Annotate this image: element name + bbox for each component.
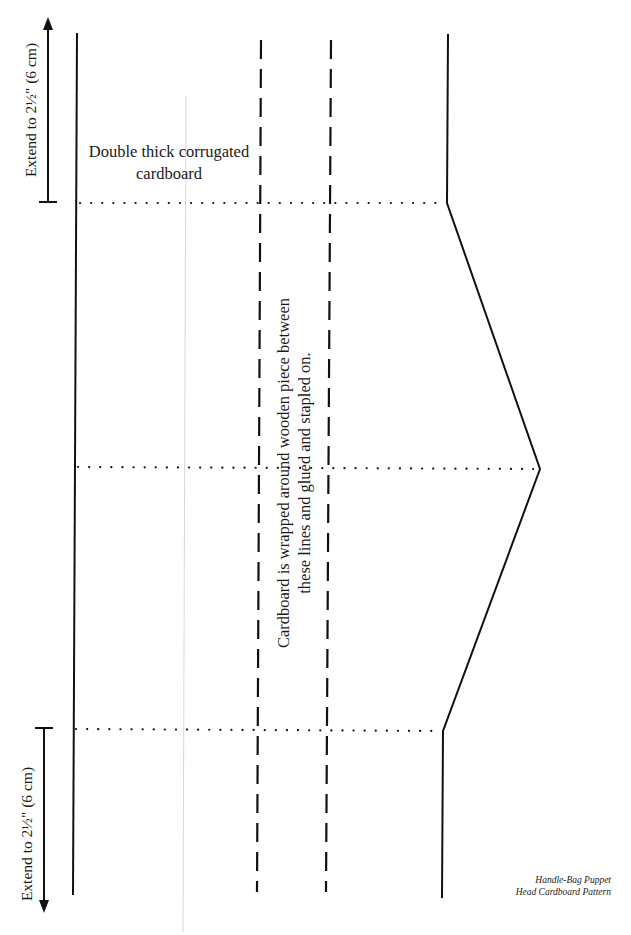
wrap-instruction: Cardboard is wrapped around wooden piece…: [273, 243, 317, 703]
right-cut-line: [442, 34, 540, 898]
wrap-boundary-right-dashed: [326, 40, 331, 892]
extend-bottom-label: Extend to 2½" (6 cm): [17, 744, 37, 924]
material-note-line1: Double thick corrugated: [78, 141, 260, 163]
extend-bottom-arrow-icon: [35, 728, 53, 913]
left-cut-line: [73, 33, 77, 895]
pattern-sheet: Extend to 2½" (6 cm) Extend to 2½" (6 cm…: [0, 0, 631, 935]
wrap-instruction-line2: these lines and glued and stapled on.: [294, 243, 315, 703]
pattern-caption: Handle-Bag Puppet Head Cardboard Pattern: [451, 874, 611, 898]
extend-top-label: Extend to 2½" (6 cm): [21, 20, 41, 200]
material-note: Double thick corrugated cardboard: [78, 141, 260, 185]
caption-line2: Head Cardboard Pattern: [451, 886, 611, 898]
caption-line1: Handle-Bag Puppet: [451, 874, 611, 886]
wrap-instruction-line1: Cardboard is wrapped around wooden piece…: [273, 243, 294, 703]
center-guide-line: [183, 96, 186, 932]
extend-top-arrow-icon: [39, 17, 57, 202]
material-note-line2: cardboard: [78, 163, 260, 185]
fold-line-bottom: [76, 729, 442, 731]
